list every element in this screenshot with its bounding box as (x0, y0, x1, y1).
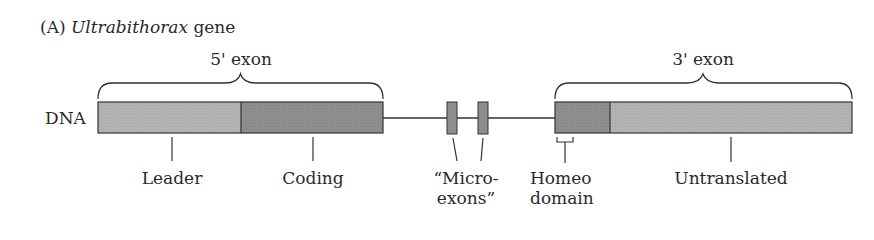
dna-label: DNA (45, 108, 86, 128)
untranslated-label: Untranslated (674, 168, 787, 188)
five-prime-exon-label: 5' exon (210, 49, 272, 69)
five-prime-exon (98, 102, 383, 133)
three-prime-exon (555, 102, 852, 133)
coding-label: Coding (282, 168, 343, 188)
homeo-label-line2: domain (530, 188, 594, 208)
five-prime-brace (98, 74, 383, 99)
microexons-label-line1: “Micro- (433, 168, 498, 188)
homeo-label-line1: Homeo (530, 168, 594, 188)
three-prime-exon-label: 3' exon (672, 49, 734, 69)
leader-label: Leader (142, 168, 203, 188)
homeo-domain-label: Homeo domain (530, 168, 594, 208)
microexons-label: “Micro- exons” (433, 168, 498, 208)
microexons-label-line2: exons” (433, 188, 498, 208)
three-prime-brace (555, 74, 852, 99)
